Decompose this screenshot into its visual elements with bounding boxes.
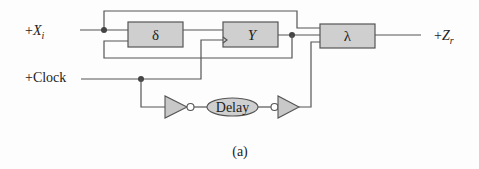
clock-label: +Clock bbox=[25, 70, 66, 85]
xi-junction-dot bbox=[101, 27, 107, 33]
inverter-1-icon bbox=[165, 96, 187, 118]
diagram-svg: δ Y λ Delay +Xi +Clock +Zr (a) bbox=[0, 0, 479, 169]
delayed-clock-to-lambda-wire bbox=[299, 42, 320, 107]
figure-caption: (a) bbox=[232, 144, 248, 160]
delay-label: Delay bbox=[216, 100, 249, 115]
clock-branch-wire bbox=[141, 79, 165, 107]
lambda-label: λ bbox=[344, 28, 352, 44]
inverter-2-icon bbox=[278, 96, 299, 118]
zr-label: +Zr bbox=[434, 28, 454, 46]
xi-label: +Xi bbox=[25, 23, 44, 41]
inverter-1-bubble bbox=[187, 104, 194, 111]
inverter-2-bubble bbox=[271, 104, 278, 111]
delta-label: δ bbox=[152, 27, 159, 43]
state-machine-diagram: δ Y λ Delay +Xi +Clock +Zr (a) bbox=[0, 0, 479, 169]
